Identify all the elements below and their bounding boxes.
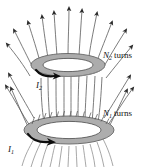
field-lines-left-outer bbox=[6, 22, 40, 134]
figure-canvas: N2turns N1turns I2 I1 bbox=[0, 0, 155, 168]
label-lower-turns: N1turns bbox=[102, 108, 133, 119]
physics-figure-mutual-inductance: N2turns N1turns I2 I1 bbox=[0, 0, 155, 168]
upper-coil bbox=[31, 54, 105, 80]
lower-coil bbox=[24, 111, 114, 146]
label-upper-turns: N2turns bbox=[102, 50, 133, 61]
label-lower-current: I1 bbox=[7, 144, 14, 155]
field-lines-above-upper-coil bbox=[42, 8, 97, 58]
